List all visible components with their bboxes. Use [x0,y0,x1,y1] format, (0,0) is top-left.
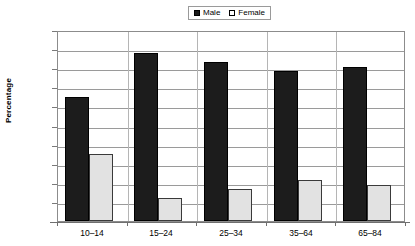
bar-series-group [58,32,404,221]
filled-square-icon [194,10,200,16]
legend-label-female: Female [238,9,265,17]
x-tick-label: 65–84 [335,229,405,238]
x-tick-label: 10–14 [57,229,127,238]
bar-female-25–34 [228,189,252,221]
x-tick-label: 35–64 [266,229,336,238]
x-tick-mark [405,222,406,226]
empty-square-icon [229,10,235,16]
bar-male-65–84 [343,67,367,221]
bar-female-10–14 [89,154,113,221]
bar-female-65–84 [367,185,391,221]
legend-item-male: Male [194,9,220,17]
bar-female-35–64 [298,180,322,221]
x-tick-label: 25–34 [196,229,266,238]
y-axis-title: Percentage [4,71,13,131]
x-axis-line [50,222,410,223]
x-tick-mark [57,222,58,226]
legend-label-male: Male [203,9,220,17]
x-tick-label: 15–24 [126,229,196,238]
plot-area [57,31,405,222]
bar-chart: Male Female Percentage 100.0%90.0%80.0%7… [0,0,415,246]
bar-male-35–64 [274,71,298,221]
x-tick-mark [335,222,336,226]
bar-female-15–24 [158,198,182,221]
x-tick-mark [266,222,267,226]
x-tick-mark [196,222,197,226]
bar-male-10–14 [65,97,89,221]
bar-male-15–24 [134,53,158,221]
legend-item-female: Female [229,9,265,17]
bar-male-25–34 [204,62,228,221]
x-tick-mark [127,222,128,226]
chart-legend: Male Female [188,6,271,20]
